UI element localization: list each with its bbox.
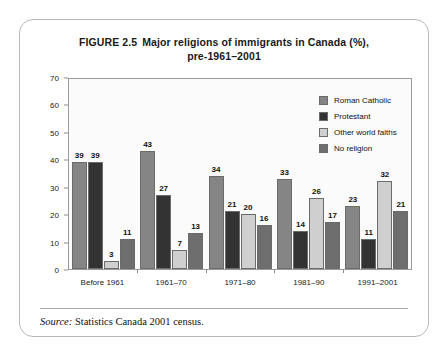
bar-value-label: 43: [143, 140, 152, 150]
bar-value-label: 11: [123, 228, 131, 238]
legend-item[interactable]: Other world faiths: [319, 125, 441, 140]
bar-slot: 27: [156, 79, 171, 269]
bar-value-label: 23: [348, 195, 357, 205]
figure-card: FIGURE 2.5Major religions of immigrants …: [19, 19, 429, 337]
source-note: Source: Statistics Canada 2001 census.: [40, 316, 204, 327]
legend-label: Protestant: [334, 112, 370, 121]
bar-value-label: 34: [212, 165, 221, 175]
bar-value-label: 26: [312, 187, 321, 197]
y-tick-label: 40: [50, 156, 59, 165]
plot-area: 39393114327713342120163314261723113221 R…: [68, 78, 412, 270]
bar[interactable]: [104, 261, 119, 269]
bar-value-label: 11: [365, 228, 373, 238]
bar-slot: 21: [225, 79, 240, 269]
bar[interactable]: [345, 206, 360, 269]
bar-value-label: 3: [109, 250, 113, 260]
chart-plot-wrapper: 010203040506070 393931143277133421201633…: [40, 78, 412, 298]
y-tick-label: 60: [50, 101, 59, 110]
bar-value-label: 33: [280, 168, 289, 178]
bar[interactable]: [277, 179, 292, 270]
bar-slot: 20: [241, 79, 256, 269]
bar-value-label: 13: [191, 222, 200, 232]
bar[interactable]: [188, 233, 203, 269]
bar[interactable]: [120, 239, 135, 269]
bar-value-label: 27: [159, 184, 168, 194]
bar-group-bars: 4327713: [137, 79, 205, 269]
legend-label: Other world faiths: [334, 128, 397, 137]
bar[interactable]: [377, 181, 392, 269]
source-text: Statistics Canada 2001 census.: [72, 316, 204, 327]
bar-group: 34212016: [206, 79, 274, 269]
bar-slot: 16: [257, 79, 272, 269]
bar-slot: 39: [72, 79, 87, 269]
legend-swatch-icon: [319, 112, 328, 121]
legend-swatch-icon: [319, 96, 328, 105]
x-tick-label: 1981–90: [274, 278, 343, 287]
bar-value-label: 39: [91, 151, 100, 161]
chart-legend: Roman CatholicProtestantOther world fait…: [319, 93, 441, 157]
bar-slot: 33: [277, 79, 292, 269]
figure-title-sub: pre-1961–2001: [187, 50, 261, 62]
source-label: Source:: [40, 316, 72, 327]
x-tick-label: Before 1961: [68, 278, 137, 287]
bar[interactable]: [293, 231, 308, 269]
bar-slot: 7: [172, 79, 187, 269]
x-tick-label: 1961–70: [137, 278, 206, 287]
y-tick-label: 30: [50, 183, 59, 192]
bar[interactable]: [172, 250, 187, 269]
y-axis: 010203040506070: [40, 78, 64, 270]
bar[interactable]: [140, 151, 155, 269]
legend-item[interactable]: No religion: [319, 141, 441, 156]
y-tick-label: 0: [55, 266, 59, 275]
y-tick-label: 20: [50, 211, 59, 220]
bar[interactable]: [257, 225, 272, 269]
bar-slot: 13: [188, 79, 203, 269]
bar-value-label: 16: [260, 214, 269, 224]
bar-value-label: 32: [380, 170, 389, 180]
bar-slot: 3: [104, 79, 119, 269]
bar-slot: 34: [209, 79, 224, 269]
x-axis: Before 19611961–701971–801981–901991–200…: [68, 278, 412, 287]
y-tick-label: 50: [50, 128, 59, 137]
bar-value-label: 20: [244, 203, 253, 213]
bar-group: 3939311: [69, 79, 137, 269]
bar-slot: 11: [120, 79, 135, 269]
legend-swatch-icon: [319, 128, 328, 137]
bar[interactable]: [72, 162, 87, 269]
figure-number: FIGURE 2.5: [79, 36, 137, 48]
figure-title: FIGURE 2.5Major religions of immigrants …: [20, 35, 428, 63]
bar-group: 4327713: [137, 79, 205, 269]
legend-swatch-icon: [319, 144, 328, 153]
legend-item[interactable]: Protestant: [319, 109, 441, 124]
bar[interactable]: [241, 214, 256, 269]
y-tick-label: 70: [50, 74, 59, 83]
bar-value-label: 21: [228, 200, 237, 210]
bar-value-label: 21: [396, 200, 405, 210]
bar[interactable]: [393, 211, 408, 269]
figure-title-main: Major religions of immigrants in Canada …: [142, 36, 369, 48]
x-tick-label: 1971–80: [206, 278, 275, 287]
bar-slot: 14: [293, 79, 308, 269]
bar-value-label: 39: [75, 151, 84, 161]
legend-label: Roman Catholic: [334, 96, 391, 105]
bar-group-bars: 34212016: [206, 79, 274, 269]
bar-value-label: 7: [177, 239, 181, 249]
bar-value-label: 17: [328, 211, 337, 221]
bar-value-label: 14: [296, 220, 305, 230]
bar[interactable]: [361, 239, 376, 269]
x-tick-label: 1991–2001: [343, 278, 412, 287]
bar[interactable]: [309, 198, 324, 269]
bar[interactable]: [209, 176, 224, 269]
y-tick-label: 10: [50, 238, 59, 247]
footer-divider: [40, 308, 408, 309]
bar-slot: 39: [88, 79, 103, 269]
bar-group-bars: 3939311: [69, 79, 137, 269]
legend-label: No religion: [334, 144, 372, 153]
bar[interactable]: [325, 222, 340, 269]
bar[interactable]: [156, 195, 171, 269]
bar[interactable]: [88, 162, 103, 269]
bar[interactable]: [225, 211, 240, 269]
legend-item[interactable]: Roman Catholic: [319, 93, 441, 108]
bar-slot: 43: [140, 79, 155, 269]
